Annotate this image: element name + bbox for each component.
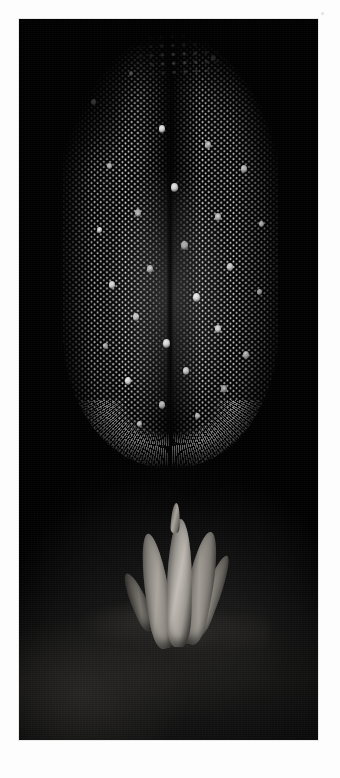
compound-eye-silhouette bbox=[63, 19, 278, 468]
compound-eye bbox=[63, 19, 278, 468]
eye-curvature-shading bbox=[63, 19, 278, 468]
page-canvas bbox=[0, 0, 340, 778]
claw-digit-center bbox=[166, 519, 193, 647]
micrograph-plate bbox=[19, 19, 318, 740]
margin-speck bbox=[321, 12, 324, 15]
